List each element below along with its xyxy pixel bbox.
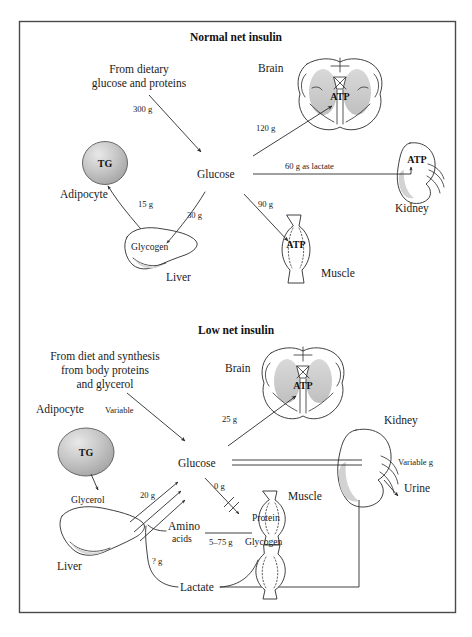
flux-label-15g: 15 g: [138, 199, 154, 209]
node-glycogen-normal: Glycogen: [131, 241, 169, 252]
node-muscle-protein-low: Protein: [252, 512, 280, 523]
node-liver-normal: Liver: [166, 271, 191, 283]
kidney-shape-normal: [397, 143, 444, 204]
node-muscle-normal: Muscle: [321, 267, 355, 279]
node-muscle-glycogen-low: Glycogen: [245, 536, 283, 547]
arrow-kidney-to-urine-low: [384, 480, 398, 496]
flux-label-5-75g: 5–75 g: [209, 537, 233, 547]
arrow-glucose-to-brain-low: [228, 396, 296, 446]
flux-label-0g: 0 g: [214, 481, 225, 491]
flux-label-variable: Variable: [105, 405, 134, 415]
node-kidney-normal: Kidney: [395, 202, 429, 215]
node-glucose-normal: Glucose: [197, 168, 235, 180]
block-slash-1-low: [224, 497, 234, 507]
flux-label-30g: 30 g: [187, 210, 203, 220]
panel-title-normal: Normal net insulin: [190, 31, 283, 43]
panel-normal-net-insulin: Normal net insulin From dietary glucose …: [60, 31, 444, 283]
node-glycerol-low: Glycerol: [71, 494, 105, 505]
node-amino-acids-low-line2: acids: [172, 533, 192, 544]
panel-low-net-insulin: Low net insulin From diet and synthesis …: [36, 324, 434, 599]
liver-shape-low: [60, 507, 144, 556]
flux-label-300g: 300 g: [133, 104, 153, 114]
node-adipocyte-low: Adipocyte: [36, 403, 84, 416]
block-slash-2-low: [229, 502, 239, 512]
source-text-low-line1: From diet and synthesis: [50, 350, 160, 363]
node-urine-low: Urine: [404, 482, 430, 494]
node-liver-low: Liver: [57, 560, 82, 572]
flux-label-120g: 120 g: [256, 123, 276, 133]
source-text-low-line2: from body proteins: [61, 364, 150, 377]
flux-label-60g-as-lactate: 60 g as lactate: [285, 161, 334, 171]
flux-label-20g: 20 g: [140, 490, 156, 500]
arrow-diet-to-glucose-normal: [149, 95, 201, 152]
flux-label-25g: 25 g: [222, 414, 238, 424]
node-tg-low: TG: [79, 447, 94, 458]
node-glucose-low: Glucose: [178, 457, 216, 469]
node-kidney-low: Kidney: [384, 414, 418, 427]
arrow-diet-to-glucose-low: [127, 393, 185, 441]
node-adipocyte-normal: Adipocyte: [60, 188, 108, 201]
node-lactate-low: Lactate: [180, 581, 214, 593]
node-muscle-low: Muscle: [288, 490, 322, 502]
panel-title-low: Low net insulin: [198, 324, 275, 336]
flux-label-questiong: ? g: [152, 556, 163, 566]
kidney-shape-low: [338, 429, 398, 507]
node-amino-acids-low-line1: Amino: [168, 520, 200, 532]
arrow-tg-to-glycerol-low: [91, 474, 98, 490]
node-muscle-atp-normal: ATP: [286, 239, 305, 250]
figure-root: Normal net insulin From dietary glucose …: [0, 0, 472, 637]
node-tg-normal: TG: [98, 158, 113, 169]
line-muscle-to-lactate-low: [220, 560, 258, 587]
metabolic-flux-diagram: Normal net insulin From dietary glucose …: [0, 0, 472, 637]
node-brain-normal: Brain: [258, 62, 284, 74]
node-brain-low: Brain: [225, 362, 251, 374]
node-kidney-atp-normal: ATP: [407, 154, 426, 165]
arrow-liver-to-glucose-low-1: [130, 482, 178, 522]
node-brain-atp-normal: ATP: [330, 91, 349, 102]
flux-label-variable-g: Variable g: [398, 457, 434, 467]
flux-label-90g: 90 g: [258, 199, 274, 209]
source-text-low-line3: and glycerol: [76, 378, 133, 391]
source-text-normal-line2: glucose and proteins: [92, 77, 187, 90]
node-brain-atp-low: ATP: [293, 380, 312, 391]
source-text-normal-line1: From dietary: [109, 63, 169, 76]
